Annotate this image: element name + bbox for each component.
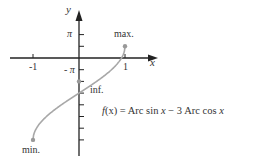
point-min: [31, 138, 35, 142]
point-max: [123, 44, 127, 48]
function-label-mid: − 3 Arc cos: [166, 105, 219, 116]
y-tick-label-pi: π: [67, 28, 73, 39]
function-plot: y x -1 1 π - π max. inf. min. f(x) = Arc…: [0, 0, 255, 159]
axes: [10, 10, 158, 156]
y-axis-arrow-icon: [76, 10, 83, 21]
function-label: f(x) = Arc sin x − 3 Arc cos x: [102, 105, 224, 117]
point-inf: [77, 79, 81, 83]
x-tick-label-neg1: -1: [29, 61, 37, 72]
function-label-x2: x: [218, 105, 224, 116]
annotation-min: min.: [22, 144, 40, 155]
function-label-rest: (x) = Arc sin: [105, 105, 161, 117]
y-tick-label-neg-pi: - π: [64, 64, 76, 75]
y-axis-label: y: [65, 3, 71, 15]
annotation-max: max.: [114, 28, 134, 39]
annotation-inf: inf.: [90, 84, 104, 95]
x-axis-label: x: [149, 56, 155, 68]
x-tick-label-1: 1: [123, 61, 128, 72]
